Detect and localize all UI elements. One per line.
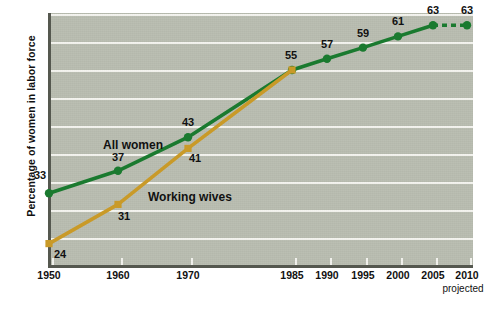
data-label-all-women: 63 <box>452 4 482 16</box>
data-label-all-women: 57 <box>312 38 342 50</box>
data-label-all-women: 55 <box>276 49 306 61</box>
gridline <box>51 182 473 184</box>
x-tick-mark <box>470 258 472 265</box>
x-tick-mark <box>366 258 368 265</box>
data-label-all-women: 43 <box>173 116 203 128</box>
gridline <box>51 238 473 240</box>
chart-figure: Percentage of women in labor force 02530… <box>0 0 494 317</box>
gridline <box>51 70 473 72</box>
data-label-all-women: 61 <box>383 15 413 27</box>
projected-note: projected <box>428 283 494 294</box>
data-label-all-women: 37 <box>103 151 133 163</box>
gridline <box>51 126 473 128</box>
x-tick-mark <box>436 258 438 265</box>
data-label-all-women: 59 <box>348 27 378 39</box>
x-tick-label: 1960 <box>95 269 141 281</box>
series-label-all-women: All women <box>103 138 163 152</box>
x-tick-mark <box>295 258 297 265</box>
x-tick-mark <box>191 258 193 265</box>
data-label-all-women: 63 <box>418 4 448 16</box>
data-label-working-wives: 24 <box>45 248 75 260</box>
y-axis-title: Percentage of women in labor force <box>25 1 37 251</box>
x-tick-mark <box>401 258 403 265</box>
x-tick-label: 1950 <box>26 269 72 281</box>
gridline <box>51 42 473 44</box>
data-label-working-wives: 31 <box>109 210 139 222</box>
data-label-working-wives: 41 <box>180 152 210 164</box>
x-tick-label: 2010 <box>444 269 490 281</box>
series-label-working-wives: Working wives <box>148 190 232 204</box>
x-tick-mark <box>121 258 123 265</box>
data-label-all-women: 33 <box>25 169 55 181</box>
gridline <box>51 98 473 100</box>
x-tick-mark <box>330 258 332 265</box>
x-tick-label: 1970 <box>165 269 211 281</box>
